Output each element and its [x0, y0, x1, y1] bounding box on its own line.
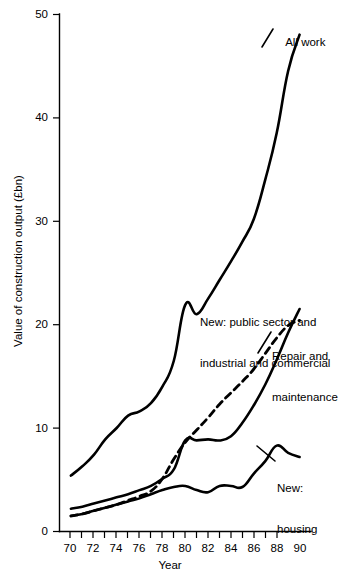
y-tick-label-40: 40 — [22, 112, 48, 124]
x-tick-label-84: 84 — [221, 543, 241, 555]
y-tick-label-50: 50 — [22, 9, 48, 21]
x-tick-label-80: 80 — [175, 543, 195, 555]
y-axis-title: Value of construction output (£bn) — [12, 171, 24, 351]
x-tick-label-78: 78 — [152, 543, 172, 555]
x-axis-title: Year — [140, 559, 200, 571]
leader-all-work — [262, 29, 273, 47]
series-path-new-housing — [71, 445, 300, 516]
x-tick-label-82: 82 — [198, 543, 218, 555]
series-label-housing-line2: housing — [277, 523, 317, 537]
y-tick-marks — [53, 15, 60, 532]
x-tick-label-86: 86 — [244, 543, 264, 555]
x-tick-label-74: 74 — [106, 543, 126, 555]
x-tick-label-72: 72 — [83, 543, 103, 555]
series-label-repair: Repair and maintenance — [272, 323, 338, 431]
x-tick-label-76: 76 — [129, 543, 149, 555]
series-label-housing-line1: New: — [277, 482, 317, 496]
y-tick-label-0: 0 — [22, 526, 48, 538]
x-tick-marks — [70, 532, 277, 539]
y-tick-label-10: 10 — [22, 423, 48, 435]
series-label-repair-line2: maintenance — [272, 391, 338, 405]
series-label-all-work-text: All work — [285, 36, 325, 48]
series-label-repair-line1: Repair and — [272, 350, 338, 364]
y-tick-label-20: 20 — [22, 319, 48, 331]
x-tick-label-70: 70 — [60, 543, 80, 555]
series-label-housing: New: housing — [277, 455, 317, 563]
chart-figure: 50 40 30 20 10 0 70 72 74 76 78 80 82 84… — [0, 0, 358, 581]
y-tick-label-30: 30 — [22, 216, 48, 228]
series-path-all-work — [71, 35, 300, 476]
series-label-all-work: All work — [273, 22, 325, 63]
data-series-group — [71, 35, 300, 516]
